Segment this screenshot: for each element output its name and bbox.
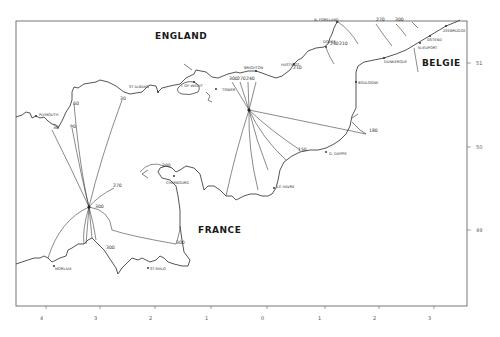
contour-value: 270 xyxy=(113,184,122,189)
place-label: MORLAIX xyxy=(55,268,72,272)
place-label: PLYMOUTH xyxy=(39,114,58,118)
contour-value: 210 xyxy=(339,42,348,47)
x-tick-label: 1 xyxy=(318,316,321,321)
contour-value: 300 xyxy=(95,205,104,210)
place-label: ST MALO xyxy=(150,268,166,272)
contour-value: 180 xyxy=(369,129,378,134)
x-tick-label: 0 xyxy=(261,316,264,321)
cotidal-lines-west xyxy=(48,100,180,258)
country-label-england: ENGLAND xyxy=(155,32,207,41)
contour-value: 300 xyxy=(176,241,185,246)
place-label: LE HAVRE xyxy=(277,186,295,190)
place-label: ZEEBRUGGE xyxy=(443,30,465,34)
place-label: BOULOGNE xyxy=(358,82,378,86)
contour-value: 90 xyxy=(70,125,76,130)
contour-value: 240 xyxy=(246,77,255,82)
country-label-france: FRANCE xyxy=(198,226,241,235)
x-tick-label: 2 xyxy=(373,316,376,321)
amphidrome-east xyxy=(247,108,250,111)
somme-estuary xyxy=(352,114,366,134)
y-axis-ticks xyxy=(467,63,471,230)
place-label: I. OF WIGHT xyxy=(181,85,203,89)
contour-value: 240 xyxy=(330,42,339,47)
x-tick-label: 2 xyxy=(149,316,152,321)
x-tick-label: 1 xyxy=(205,316,208,321)
contour-value: 300 xyxy=(395,18,404,23)
x-tick-label: 3 xyxy=(94,316,97,321)
x-tick-label: 3 xyxy=(428,316,431,321)
place-label: ST ALBANS xyxy=(129,86,149,90)
contour-value: 30 xyxy=(53,126,59,131)
contour-value: 210 xyxy=(293,66,302,71)
contour-value: 300 xyxy=(106,246,115,251)
place-label: TOWER xyxy=(222,89,235,93)
country-label-belgie: BELGIE xyxy=(422,59,461,68)
channel-islands-hint xyxy=(142,170,148,178)
contour-value: 30 xyxy=(120,97,126,102)
x-axis-ticks xyxy=(46,306,434,309)
place-label: D. DIEPPE xyxy=(329,153,347,157)
y-tick-label: 49 xyxy=(476,228,482,233)
contour-value: 150 xyxy=(298,148,307,153)
place-label: N. FORELAND xyxy=(314,19,339,23)
place-label: N.IEUPORT xyxy=(418,47,437,51)
contour-value: 300 xyxy=(162,164,171,169)
place-label: DUNKERQUE xyxy=(384,61,407,65)
place-label: CHERBOURG xyxy=(166,182,189,186)
x-tick-label: 4 xyxy=(40,316,43,321)
y-tick-label: 50 xyxy=(476,145,482,150)
contour-value: 60 xyxy=(73,102,79,107)
solent-inlet xyxy=(184,64,212,102)
contour-value: 270 xyxy=(237,77,246,82)
y-tick-label: 51 xyxy=(476,61,482,66)
cotidal-lines-east xyxy=(226,82,366,196)
amphidrome-west xyxy=(87,205,90,208)
contour-value: 270 xyxy=(376,18,385,23)
place-label: BRIGHTON xyxy=(244,67,263,71)
place-label: OSTEND xyxy=(427,39,442,43)
